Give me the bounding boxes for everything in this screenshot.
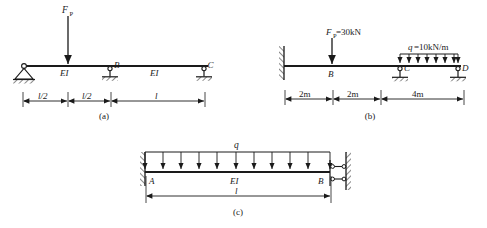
node-label-c-b: C — [404, 63, 411, 73]
span-label-ei-a1: EI — [59, 68, 69, 78]
dimension-label-b-3: 4m — [412, 89, 424, 99]
node-label-b-a: B — [114, 60, 120, 70]
dimension-label-b-2: 2m — [347, 89, 359, 99]
dimension-label-c-1: l — [235, 186, 238, 196]
dimension-label-a-2: l/2 — [82, 91, 92, 101]
load-label-q-b: q — [408, 42, 413, 52]
figure-caption-c: (c) — [233, 207, 243, 217]
node-label-a-c: A — [148, 176, 155, 186]
support-fixed-c-a — [140, 152, 145, 186]
load-label-fp-a: F — [61, 5, 68, 15]
figure-caption-b: (b) — [365, 111, 376, 121]
dimension-line-a — [23, 92, 205, 107]
support-double-link-c-b — [330, 152, 351, 190]
figure-c: q A B EI l (c) — [140, 140, 351, 217]
load-label-q-c: q — [234, 140, 239, 150]
node-label-c-a: C — [208, 60, 215, 70]
distributed-load-b — [400, 54, 458, 63]
span-label-ei-a2: EI — [149, 68, 159, 78]
beam-diagram-sheet: F P B C EI EI — [0, 0, 487, 228]
dimension-label-a-1: l/2 — [38, 91, 48, 101]
load-label-fp-a-sub: P — [70, 10, 74, 17]
node-label-b-c: B — [318, 176, 324, 186]
node-label-d-b: D — [461, 63, 469, 73]
dimension-line-b — [285, 90, 464, 105]
dimension-label-b-1: 2m — [299, 89, 311, 99]
figure-caption-a: (a) — [99, 111, 109, 121]
support-fixed-b-left — [279, 46, 284, 80]
span-label-ei-c: EI — [229, 176, 239, 186]
load-value-q-b: =10kN/m — [414, 42, 449, 52]
load-label-fp-b: F — [325, 27, 332, 37]
load-value-fp-b: =30kN — [336, 27, 362, 37]
dimension-line-c — [146, 176, 331, 203]
dimension-label-a-3: l — [155, 91, 158, 101]
figure-b: F P =30kN q =10kN/m B C — [279, 27, 469, 121]
node-label-b-b: B — [328, 69, 334, 79]
distributed-load-c — [145, 152, 330, 169]
figure-a: F P B C EI EI — [13, 5, 215, 121]
